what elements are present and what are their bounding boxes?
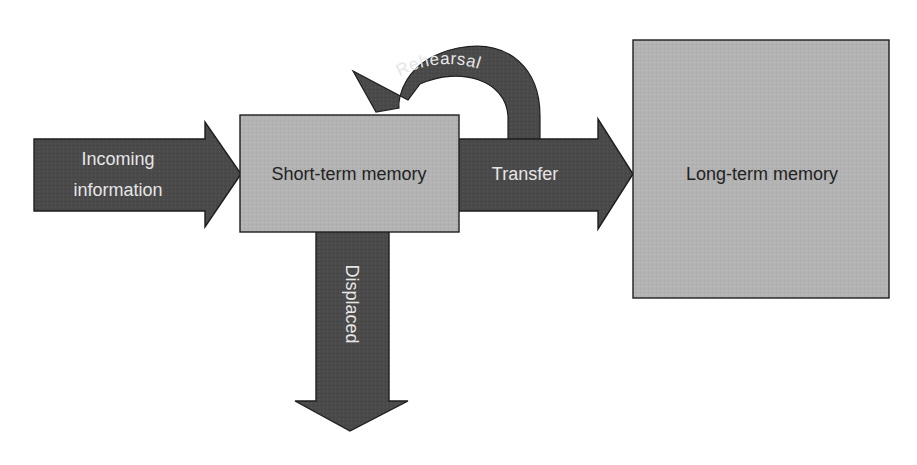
incoming-label-line2: information (73, 180, 162, 200)
incoming-label-line1: Incoming (81, 149, 154, 169)
short-term-memory-box: Short-term memory (240, 115, 459, 232)
memory-model-diagram: Rehearsal Incoming information Transfer … (0, 0, 917, 465)
long-term-memory-label: Long-term memory (686, 164, 838, 184)
displaced-label: Displaced (342, 264, 362, 343)
transfer-label: Transfer (492, 164, 558, 184)
displaced-arrow: Displaced (295, 228, 408, 431)
incoming-arrow-shape (34, 122, 241, 227)
transfer-arrow: Transfer (455, 119, 633, 229)
short-term-memory-label: Short-term memory (271, 164, 426, 184)
incoming-information-arrow: Incoming information (34, 122, 241, 227)
long-term-memory-box: Long-term memory (633, 40, 889, 298)
